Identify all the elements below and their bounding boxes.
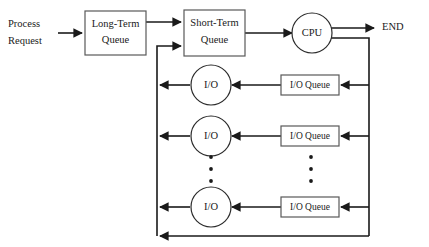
io-queue-3-label: I/O Queue <box>290 202 330 212</box>
ellipsis-dot <box>209 167 213 171</box>
ellipsis-left-column <box>209 155 213 183</box>
process-scheduling-diagram: Long-Term Queue Short-Term Queue CPU END… <box>0 0 429 247</box>
ellipsis-right-column <box>309 155 313 183</box>
cpu-label: CPU <box>302 27 323 38</box>
io-2-label: I/O <box>204 130 218 141</box>
ellipsis-dot <box>309 167 313 171</box>
ellipsis-dot <box>309 179 313 183</box>
node-short-term-queue: Short-Term Queue <box>184 10 245 56</box>
ellipsis-dot <box>309 155 313 159</box>
end-label: END <box>382 21 404 32</box>
diagram-canvas: Long-Term Queue Short-Term Queue CPU END… <box>0 0 429 247</box>
io-1-label: I/O <box>204 79 218 90</box>
io-queue-1-label: I/O Queue <box>290 80 330 90</box>
long-term-queue-label-line1: Long-Term <box>92 18 140 29</box>
ellipsis-dot <box>209 155 213 159</box>
node-io-queue-3: I/O Queue <box>281 197 339 217</box>
node-io-queue-2: I/O Queue <box>281 126 339 146</box>
process-request-label-line2: Request <box>8 35 42 46</box>
node-long-term-queue: Long-Term Queue <box>85 11 146 55</box>
io-queue-2-label: I/O Queue <box>290 131 330 141</box>
node-io-2: I/O <box>191 116 231 156</box>
node-cpu: CPU <box>292 13 332 53</box>
node-io-3: I/O <box>191 187 231 227</box>
ellipsis-dot <box>209 179 213 183</box>
long-term-queue-label-line2: Queue <box>102 34 130 45</box>
process-request-label-line1: Process <box>8 18 40 29</box>
short-term-queue-label-line1: Short-Term <box>190 17 238 28</box>
node-io-1: I/O <box>191 65 231 105</box>
io-3-label: I/O <box>204 201 218 212</box>
short-term-queue-label-line2: Queue <box>201 34 229 45</box>
node-io-queue-1: I/O Queue <box>281 75 339 95</box>
